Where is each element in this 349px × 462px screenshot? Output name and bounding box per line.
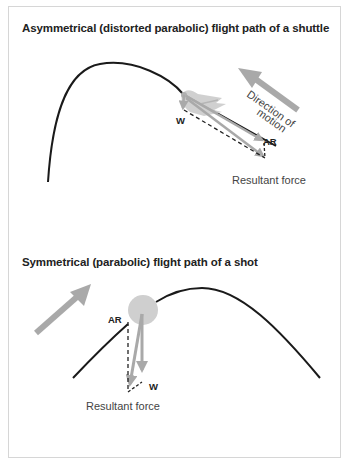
resultant-label-shuttle: Resultant force	[232, 174, 306, 186]
air-resistance-label-shuttle: AR	[263, 136, 277, 147]
shot-flight-path	[73, 288, 320, 378]
weight-label-shuttle: W	[176, 115, 185, 126]
resultant-vector-shuttle	[186, 98, 263, 156]
direction-arrow-shot	[36, 284, 91, 333]
flight-path-diagrams: Direction of motion W AR Resultant force	[0, 0, 349, 462]
shuttle-diagram: Direction of motion W AR Resultant force	[48, 63, 306, 186]
shuttle-flight-path	[48, 63, 276, 182]
air-resistance-label-shot: AR	[108, 314, 122, 325]
shot-diagram: AR W Resultant force	[36, 284, 320, 412]
resultant-label-shot: Resultant force	[86, 400, 160, 412]
weight-label-shot: W	[149, 381, 158, 392]
resultant-vector-shot	[130, 314, 142, 384]
weight-vector-shuttle	[183, 95, 184, 108]
